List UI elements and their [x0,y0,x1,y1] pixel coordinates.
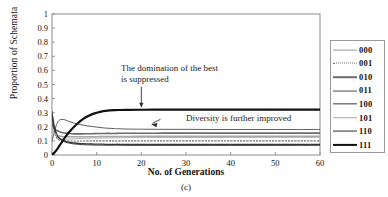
legend-label-101: 101 [359,114,372,123]
annotation-arrow-diversity [153,119,161,123]
figure-caption: (c) [52,182,320,192]
legend-item-101[interactable]: 101 [331,111,384,125]
legend-label-010: 010 [359,73,372,82]
legend-label-110: 110 [359,127,372,136]
legend-swatch-010 [333,72,357,82]
legend-item-100[interactable]: 100 [331,97,384,111]
legend-swatch-110 [333,126,357,136]
legend-swatch-101 [333,113,357,123]
legend-swatch-111 [333,140,357,150]
legend-label-111: 111 [359,141,371,150]
legend-item-000[interactable]: 000 [331,43,384,57]
legend-label-100: 100 [359,100,372,109]
annotation-domination: The domination of the best is suppressed [121,63,218,84]
legend-label-001: 001 [359,59,372,68]
legend-label-000: 000 [359,46,372,55]
x-axis-title: No. of Generations [52,167,320,177]
annotation-diversity: Diversity is further improved [186,113,291,124]
legend-item-001[interactable]: 001 [331,57,384,71]
annotation-arrowhead-diversity [151,123,158,127]
legend-swatch-100 [333,99,357,109]
legend-swatch-001 [333,58,357,68]
figure-panel: Proportion of Schemata 00.10.20.30.40.50… [0,0,388,197]
legend: 000001010011100101110111 [330,40,385,153]
legend-label-011: 011 [359,86,372,95]
legend-swatch-011 [333,86,357,96]
legend-item-111[interactable]: 111 [331,138,384,152]
legend-item-011[interactable]: 011 [331,84,384,98]
legend-item-110[interactable]: 110 [331,125,384,139]
legend-swatch-000 [333,45,357,55]
annotation-arrowhead-down [139,103,143,108]
legend-item-010[interactable]: 010 [331,70,384,84]
